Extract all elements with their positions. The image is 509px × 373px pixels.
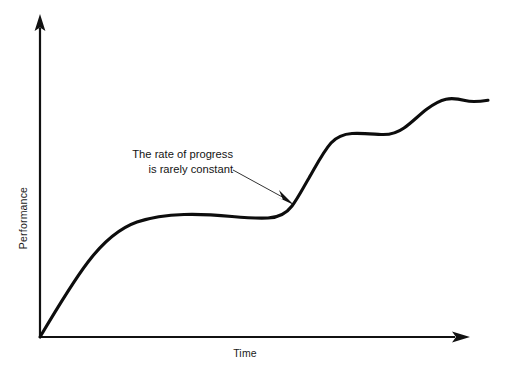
x-axis-label: Time — [233, 347, 257, 359]
plot-background — [0, 0, 509, 373]
y-axis-label: Performance — [17, 187, 29, 249]
performance-time-chart: The rate of progress is rarely constant … — [0, 0, 509, 373]
annotation-line-1: The rate of progress — [132, 148, 233, 160]
chart-figure: The rate of progress is rarely constant … — [0, 0, 509, 373]
annotation-line-2: is rarely constant — [148, 163, 233, 175]
